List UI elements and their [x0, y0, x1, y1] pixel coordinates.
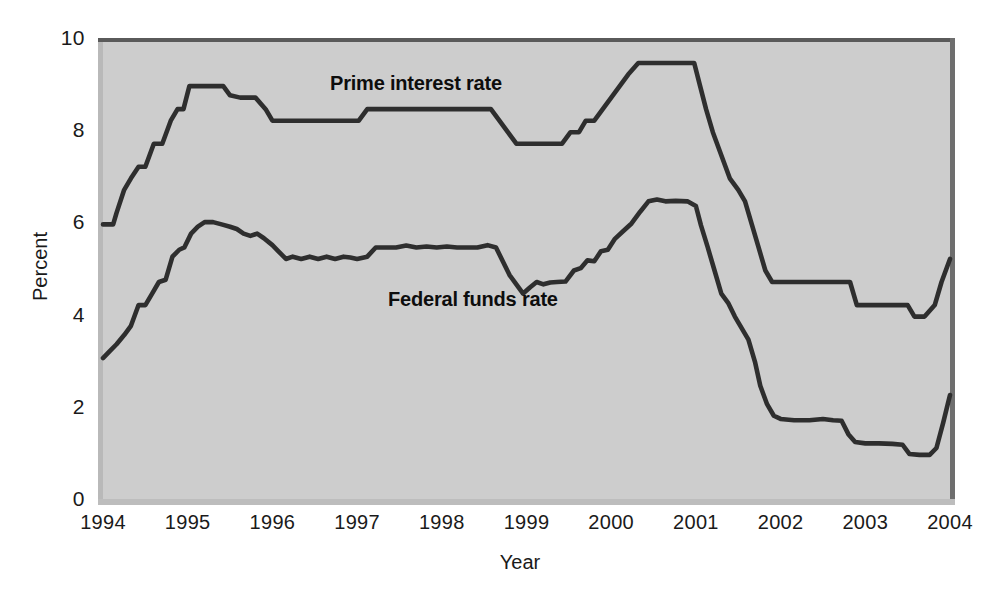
x-tick-2003: 2003: [820, 511, 910, 534]
y-axis-title: Percent: [29, 207, 52, 327]
x-tick-1996: 1996: [227, 511, 317, 534]
x-tick-2001: 2001: [651, 511, 741, 534]
series-label-prime-interest-rate: Prime interest rate: [330, 72, 502, 95]
series-line-prime-interest-rate: [103, 63, 950, 317]
x-tick-2004: 2004: [905, 511, 995, 534]
x-tick-2002: 2002: [736, 511, 826, 534]
y-tick-0: 0: [15, 487, 85, 511]
x-tick-2000: 2000: [566, 511, 656, 534]
series-line-federal-funds-rate: [103, 200, 950, 455]
x-tick-1997: 1997: [312, 511, 402, 534]
y-tick-2: 2: [15, 395, 85, 419]
x-tick-1995: 1995: [143, 511, 233, 534]
y-tick-10: 10: [15, 26, 85, 50]
x-tick-1998: 1998: [397, 511, 487, 534]
y-tick-8: 8: [15, 118, 85, 142]
series-label-federal-funds-rate: Federal funds rate: [388, 288, 558, 311]
x-tick-1999: 1999: [482, 511, 572, 534]
x-axis-title: Year: [460, 551, 580, 574]
x-tick-1994: 1994: [58, 511, 148, 534]
interest-rate-chart: 0246810 19941995199619971998199920002001…: [0, 0, 1001, 590]
